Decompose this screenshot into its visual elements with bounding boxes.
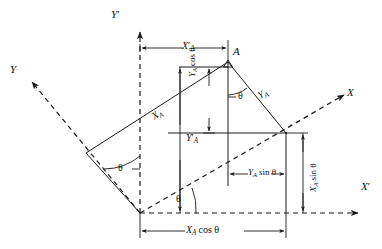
dim-trig-5: sin θ (308, 163, 318, 180)
dim-sub-2: A (194, 137, 198, 145)
dim-trig-3: cos θ (187, 47, 197, 66)
dimension-arrows (142, 48, 303, 231)
projection-lines (140, 40, 308, 238)
y-axis-label: Y (10, 64, 16, 75)
diagram-svg (0, 0, 382, 249)
dim-sub-3: A (191, 68, 198, 72)
point-a-label: A (233, 46, 240, 57)
prime-mark: ′ (117, 8, 119, 20)
prime-mark-2: ′ (368, 180, 370, 192)
dim-trig-4: sin θ (259, 167, 276, 177)
x-prime-axis-label: X′ (361, 181, 370, 192)
dim-sub-6: A (192, 229, 196, 237)
dimension-y-a-cos-label: YAcos θ (188, 47, 198, 77)
dim-trig-6: cos θ (199, 224, 220, 235)
theta-at-point-a-label: θ (238, 91, 243, 101)
theta-origin-x-arc (192, 188, 196, 213)
x-axis-label: X (347, 87, 354, 98)
dimension-x-a-sin-label: XAsin θ (309, 163, 319, 192)
y-a-construction-line (228, 62, 286, 133)
figure-canvas: Y′ X′ X Y A X′A Y′A YAcos θ YAsin θ XAsi… (0, 0, 382, 249)
theta-origin-x-label: θ (176, 194, 181, 204)
x-axis-line (140, 95, 344, 213)
dimension-x-a-cos-label: XAcos θ (186, 225, 219, 237)
dim-base-5: X (308, 187, 318, 193)
dimension-y-prime-a-label: Y′A (186, 133, 198, 145)
dimension-y-a-sin-label: YAsin θ (248, 168, 276, 178)
y-prime-axis-label: Y′ (111, 9, 120, 20)
dim-sub-5: A (312, 183, 319, 187)
theta-origin-y-label: θ (118, 163, 123, 173)
dim-base-3: Y (187, 72, 197, 77)
y-axis-line (32, 82, 140, 213)
dim-sub-4: A (253, 171, 257, 178)
